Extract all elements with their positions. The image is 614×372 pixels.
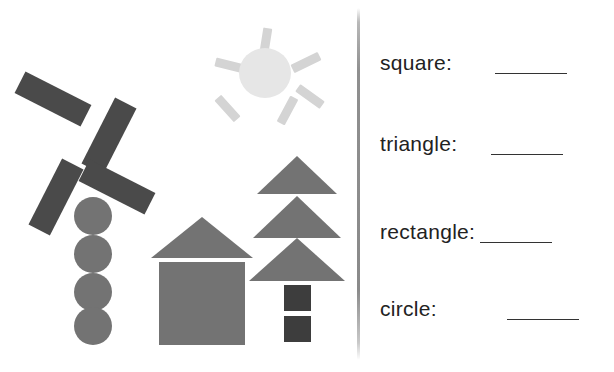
tree-trunk-lower-icon: [284, 316, 311, 342]
answer-blank-square[interactable]: [495, 73, 567, 74]
worksheet-page: square: triangle: rectangle: circle:: [0, 0, 614, 372]
shape-illustration: [0, 0, 358, 372]
windmill-tower-circle-3-icon: [74, 273, 112, 311]
tree: [249, 156, 345, 342]
answer-label-triangle: triangle:: [380, 133, 457, 154]
windmill-blade-lower-left-icon: [29, 159, 84, 236]
tree-foliage-middle-icon: [253, 196, 341, 238]
house-body-icon: [159, 262, 245, 345]
vertical-divider: [357, 8, 360, 360]
tree-foliage-bottom-icon: [249, 238, 345, 281]
sun-ray-upper-right-icon: [291, 52, 322, 73]
sun: [214, 27, 324, 125]
sun-ray-lower-right-icon: [277, 96, 299, 126]
windmill-tower-circle-4-icon: [74, 307, 112, 345]
tree-foliage-top-icon: [257, 156, 337, 194]
answer-blank-circle[interactable]: [507, 319, 579, 320]
answer-row-circle: circle:: [380, 288, 614, 328]
answer-row-square: square:: [380, 42, 614, 82]
sun-ray-lower-left-icon: [214, 95, 240, 123]
tree-trunk-upper-icon: [284, 285, 311, 311]
windmill-blade-upper-left-icon: [15, 72, 92, 127]
answer-label-circle: circle:: [380, 298, 437, 319]
answer-label-square: square:: [380, 52, 452, 73]
answer-row-triangle: triangle:: [380, 123, 614, 163]
house: [151, 217, 253, 345]
answer-blank-rectangle[interactable]: [480, 242, 552, 243]
illustration-canvas: [0, 0, 358, 372]
windmill: [15, 72, 156, 345]
answer-list: square: triangle: rectangle: circle:: [380, 0, 614, 372]
windmill-tower-circle-2-icon: [74, 235, 112, 273]
windmill-tower-circle-1-icon: [74, 197, 112, 235]
answer-row-rectangle: rectangle:: [380, 211, 614, 251]
answer-blank-triangle[interactable]: [491, 154, 563, 155]
sun-ray-right-icon: [295, 84, 325, 109]
answer-label-rectangle: rectangle:: [380, 221, 475, 242]
sun-body-icon: [239, 48, 291, 98]
house-roof-icon: [151, 217, 253, 258]
